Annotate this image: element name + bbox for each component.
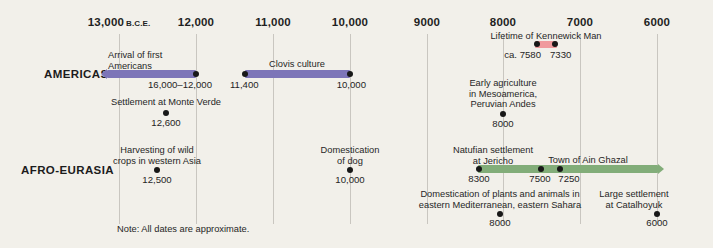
axis-tick-7000: 7000 (567, 16, 593, 28)
event-label-harvesting-wild-crops: Harvesting of wild crops in western Asia (113, 145, 201, 166)
date-catalhoyuk: 6000 (646, 218, 667, 229)
early-ag-line2: in Mesoamerica, (469, 89, 537, 100)
axis-era-label: B.C.E. (126, 19, 150, 28)
arrival-label-line1: Arrival of first (108, 50, 162, 61)
date-early-agriculture: 8000 (492, 119, 513, 130)
event-label-domestication-of-dog: Domestication of dog (321, 145, 380, 166)
span-end-dot-arrival (193, 71, 199, 77)
gridline-12000 (196, 34, 197, 224)
date-kennewick-start: ca. 7580 (504, 50, 541, 61)
row-label-americas: AMERICAS (44, 68, 109, 80)
point-dot-early-agriculture (500, 111, 506, 117)
event-label-early-agriculture: Early agriculture in Mesoamerica, Peruvi… (469, 78, 537, 110)
event-label-large-settlement-catalhoyuk: Large settlement at Catalhoyuk (599, 189, 668, 210)
date-harvesting-wild-crops: 12,500 (142, 175, 171, 186)
dog-line1: Domestication (321, 145, 380, 156)
event-label-lifetime-of-kennewick-man: Lifetime of Kennewick Man (490, 31, 601, 42)
axis-tick-13000-value: 13,000 (88, 16, 124, 28)
event-label-domestication-plants-animals: Domestication of plants and animals in e… (419, 189, 581, 210)
natufian-line1: Natufian settlement (453, 145, 533, 156)
date-natufian-jericho: 8300 (468, 174, 489, 185)
date-ain-ghazal: 7250 (558, 174, 579, 185)
span-bar-clovis-culture (245, 70, 350, 78)
footnote: Note: All dates are approximate. (117, 224, 249, 234)
date-clovis-end: 10,000 (337, 80, 366, 91)
date-domestication-plants-animals: 8000 (489, 218, 510, 229)
date-arrival-of-first-americans: 16,000–12,000 (148, 80, 212, 91)
span-mid-dot-7500 (538, 166, 544, 172)
point-dot-monte-verde (163, 110, 169, 116)
span-bar-arrival-of-first-americans (107, 70, 196, 78)
axis-tick-10000: 10,000 (332, 16, 368, 28)
span-bar-afro-eurasia-settlements (478, 165, 658, 173)
span-end-dot-clovis (347, 71, 353, 77)
arrow-right-icon-afro-eurasia (658, 164, 664, 174)
span-start-dot-jericho (476, 166, 482, 172)
date-mid-7500: 7500 (529, 174, 550, 185)
harvest-line1: Harvesting of wild (113, 145, 201, 156)
event-label-natufian-settlement: Natufian settlement at Jericho (453, 145, 533, 166)
domestication-line2: eastern Mediterranean, eastern Sahara (419, 200, 581, 211)
row-label-afro-eurasia: AFRO-EURASIA (21, 164, 114, 176)
axis-tick-13000: 13,000B.C.E. (88, 16, 151, 28)
span-dot-ain-ghazal (557, 166, 563, 172)
date-kennewick-end: 7330 (550, 50, 571, 61)
span-start-dot-clovis (242, 71, 248, 77)
axis-tick-12000: 12,000 (178, 16, 214, 28)
axis-tick-9000: 9000 (414, 16, 440, 28)
dog-line2: of dog (321, 156, 380, 167)
timeline-chart: 13,000B.C.E. 12,000 11,000 10,000 9000 8… (0, 0, 713, 248)
early-ag-line3: Peruvian Andes (469, 99, 537, 110)
date-clovis-start: 11,400 (230, 80, 259, 91)
date-monte-verde: 12,600 (151, 118, 180, 129)
event-label-clovis-culture: Clovis culture (269, 59, 325, 70)
event-label-arrival-of-first-americans: Arrival of first Americans (108, 50, 162, 71)
point-dot-harvesting-wild-crops (154, 167, 160, 173)
event-label-town-of-ain-ghazal: Town of Ain Ghazal (548, 155, 628, 166)
catalhoyuk-line2: at Catalhoyuk (599, 200, 668, 211)
axis-tick-11000: 11,000 (255, 16, 291, 28)
catalhoyuk-line1: Large settlement (599, 189, 668, 200)
span-start-dot-kennewick (534, 41, 540, 47)
span-end-dot-kennewick (552, 41, 558, 47)
date-domestication-of-dog: 10,000 (335, 175, 364, 186)
point-dot-domestication-of-dog (347, 167, 353, 173)
early-ag-line1: Early agriculture (469, 78, 537, 89)
axis-tick-6000: 6000 (644, 16, 670, 28)
event-label-settlement-at-monte-verde: Settlement at Monte Verde (111, 97, 221, 108)
harvest-line2: crops in western Asia (113, 156, 201, 167)
axis-tick-8000: 8000 (490, 16, 516, 28)
gridline-10000 (350, 34, 351, 224)
domestication-line1: Domestication of plants and animals in (419, 189, 581, 200)
